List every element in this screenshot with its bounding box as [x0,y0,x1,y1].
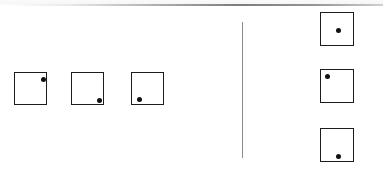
square-4[interactable] [320,12,354,46]
square-3[interactable] [131,72,164,105]
square-4-dot-icon [336,28,341,33]
vertical-divider-line [242,22,243,158]
square-2[interactable] [71,72,104,105]
page-top-edge-line [0,4,383,6]
square-3-dot-icon [137,97,142,102]
square-2-dot-icon [97,98,102,103]
square-6-dot-icon [336,154,341,159]
square-6[interactable] [320,128,354,162]
square-5[interactable] [320,69,354,103]
square-1[interactable] [14,72,47,105]
square-1-dot-icon [41,77,46,82]
figure-canvas [0,0,383,169]
square-5-dot-icon [325,74,330,79]
